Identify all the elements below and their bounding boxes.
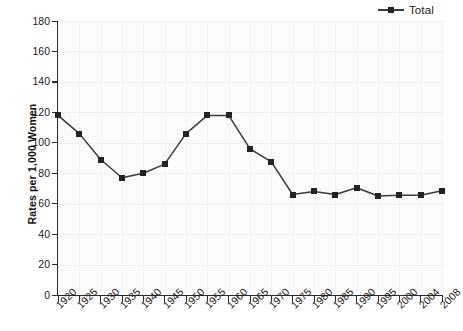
data-point-marker: [119, 175, 125, 181]
y-tick-mark: [52, 21, 58, 22]
y-tick-label-wrap: 120: [0, 107, 50, 117]
y-tick-mark: [52, 264, 58, 265]
data-point-marker: [247, 146, 253, 152]
y-tick-mark: [52, 142, 58, 143]
y-tick-label: 160: [4, 46, 50, 56]
gridline-vertical: [378, 21, 379, 295]
data-point-marker: [204, 112, 210, 118]
y-tick-label-wrap: 20: [0, 259, 50, 269]
data-point-marker: [76, 131, 82, 137]
gridline-vertical: [186, 21, 187, 295]
y-tick-label-wrap: 60: [0, 198, 50, 208]
y-tick-label: 60: [4, 198, 50, 208]
y-tick-mark: [52, 81, 58, 82]
data-point-marker: [290, 192, 296, 198]
y-tick-label-wrap: 160: [0, 46, 50, 56]
y-tick-label: 20: [4, 259, 50, 269]
y-tick-label: 40: [4, 229, 50, 239]
data-point-marker: [183, 131, 189, 137]
gridline-vertical: [143, 21, 144, 295]
gridline-vertical: [335, 21, 336, 295]
y-tick-label: 80: [4, 168, 50, 178]
y-tick-mark: [52, 234, 58, 235]
y-tick-label: 120: [4, 107, 50, 117]
gridline-vertical: [442, 21, 443, 295]
data-point-marker: [418, 192, 424, 198]
y-tick-label: 100: [4, 137, 50, 147]
chart-legend: Total: [378, 2, 434, 18]
legend-item-label: Total: [409, 4, 434, 16]
data-point-marker: [439, 188, 445, 194]
gridline-vertical: [250, 21, 251, 295]
y-tick-label-wrap: 40: [0, 229, 50, 239]
y-tick-label: 180: [4, 16, 50, 26]
y-tick-label-wrap: 80: [0, 168, 50, 178]
data-point-marker: [55, 112, 61, 118]
data-point-marker: [140, 170, 146, 176]
data-point-marker: [375, 193, 381, 199]
y-tick-mark: [52, 203, 58, 204]
y-tick-mark: [52, 173, 58, 174]
data-point-marker: [268, 159, 274, 165]
y-tick-label: 0: [4, 290, 50, 300]
plot-area: [58, 21, 442, 295]
data-point-marker: [311, 188, 317, 194]
data-point-marker: [332, 192, 338, 198]
y-tick-label-wrap: 180: [0, 16, 50, 26]
y-tick-mark: [52, 51, 58, 52]
data-point-marker: [162, 161, 168, 167]
y-tick-label-wrap: 0: [0, 290, 50, 300]
data-point-marker: [354, 185, 360, 191]
line-marker-icon: [378, 5, 404, 15]
gridline-vertical: [165, 21, 166, 295]
gridline-vertical: [207, 21, 208, 295]
gridline-vertical: [293, 21, 294, 295]
gridline-vertical: [79, 21, 80, 295]
y-tick-label-wrap: 140: [0, 76, 50, 86]
gridline-vertical: [122, 21, 123, 295]
gridline-vertical: [229, 21, 230, 295]
data-point-marker: [396, 192, 402, 198]
y-tick-label: 140: [4, 76, 50, 86]
data-point-marker: [98, 157, 104, 163]
gridline-vertical: [399, 21, 400, 295]
data-point-marker: [226, 112, 232, 118]
y-axis-line: [57, 21, 58, 296]
gridline-vertical: [357, 21, 358, 295]
gridline-vertical: [421, 21, 422, 295]
y-tick-label-wrap: 100: [0, 137, 50, 147]
gridline-vertical: [314, 21, 315, 295]
